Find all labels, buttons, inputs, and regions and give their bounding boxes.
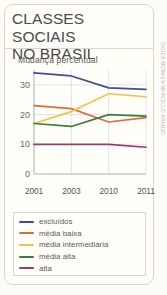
y-tick-label: 30 bbox=[20, 80, 30, 90]
credit-block: DIDIER MORAES/MARCELLO ARAUJO bbox=[156, 42, 166, 212]
legend-swatch-icon bbox=[19, 267, 34, 269]
legend-item-label: média intermediária bbox=[39, 240, 108, 249]
legend-item[interactable]: média alta bbox=[19, 251, 145, 263]
legend-item[interactable]: alta bbox=[19, 262, 145, 274]
series-line bbox=[34, 73, 146, 89]
chart-axes bbox=[34, 70, 146, 174]
y-tick-label: 10 bbox=[20, 139, 30, 149]
series-line bbox=[34, 115, 146, 127]
chart-gridlines bbox=[34, 70, 146, 174]
legend-item-label: média alta bbox=[39, 252, 75, 261]
chart-series-group bbox=[34, 73, 146, 147]
legend-item-label: excluídos bbox=[39, 217, 72, 226]
credit-text: DIDIER MORAES/MARCELLO ARAUJO bbox=[160, 42, 165, 135]
legend-item-label: média baixa bbox=[39, 229, 82, 238]
legend-swatch-icon bbox=[19, 232, 34, 234]
y-tick-label: 0 bbox=[25, 169, 30, 179]
x-tick-labels: 2001200320102011 bbox=[10, 186, 152, 200]
series-line bbox=[34, 144, 146, 147]
line-chart: 0102030 bbox=[10, 66, 152, 204]
infographic-card: CLASSES SOCIAIS NO BRASIL Mudança percen… bbox=[0, 0, 167, 295]
legend-swatch-icon bbox=[19, 244, 34, 246]
y-tick-labels: 0102030 bbox=[20, 80, 30, 179]
legend-swatch-icon bbox=[19, 256, 34, 258]
x-tick-label: 2003 bbox=[62, 186, 80, 196]
legend-item[interactable]: média intermediária bbox=[19, 239, 145, 251]
legend-swatch-icon bbox=[19, 221, 34, 223]
x-tick-label: 2001 bbox=[25, 186, 43, 196]
y-tick-label: 20 bbox=[20, 110, 30, 120]
legend-item-label: alta bbox=[39, 264, 52, 273]
title-divider bbox=[5, 48, 154, 49]
chart-svg: 0102030 bbox=[10, 66, 152, 196]
x-tick-label: 2010 bbox=[100, 186, 118, 196]
legend-item[interactable]: média baixa bbox=[19, 228, 145, 240]
series-line bbox=[34, 106, 146, 122]
legend-item[interactable]: excluídos bbox=[19, 216, 145, 228]
chart-subtitle: Mudança percentual bbox=[18, 55, 98, 65]
chart-legend: excluídosmédia baixamédia intermediáriam… bbox=[13, 212, 146, 276]
x-tick-label: 2011 bbox=[137, 186, 155, 196]
